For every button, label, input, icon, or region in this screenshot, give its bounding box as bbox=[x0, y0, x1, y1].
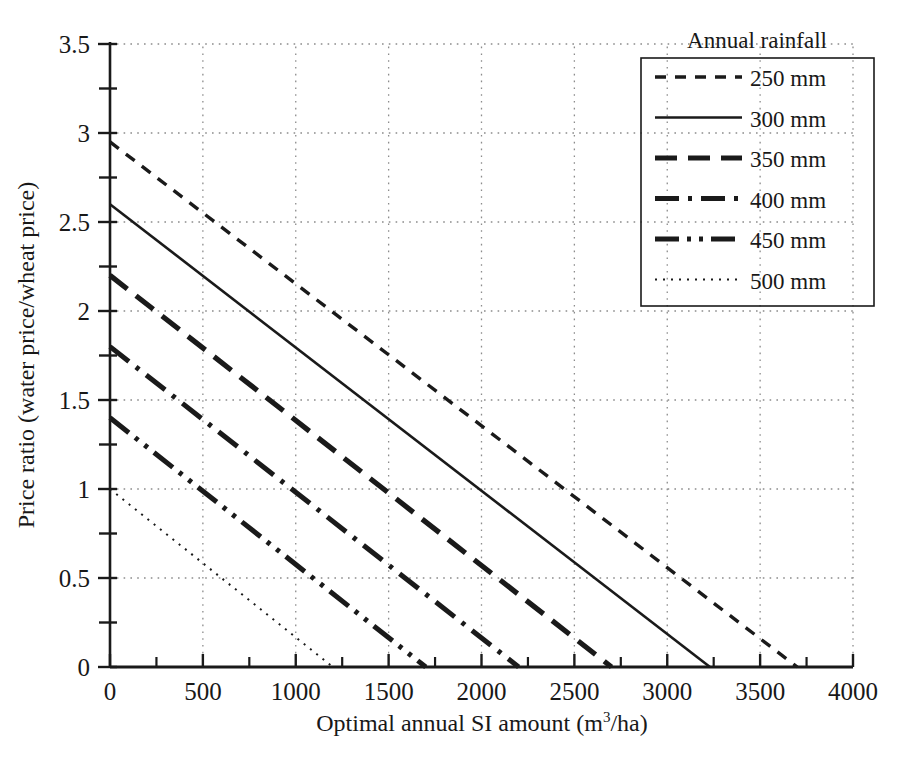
x-axis-title: Optimal annual SI amount (m3/ha) bbox=[316, 709, 647, 736]
chart-svg: 0500100015002000250030003500400000.511.5… bbox=[0, 0, 901, 765]
y-tick-label: 1.5 bbox=[59, 387, 90, 414]
series-line-500-mm bbox=[110, 489, 333, 667]
y-tick-label: 0 bbox=[78, 654, 91, 681]
x-tick-label: 2000 bbox=[457, 678, 507, 705]
x-tick-label: 4000 bbox=[828, 678, 878, 705]
legend-item-label: 350 mm bbox=[750, 147, 826, 172]
y-tick-label: 3 bbox=[78, 120, 91, 147]
legend-item-250-mm[interactable]: 250 mm bbox=[655, 66, 826, 91]
legend-item-350-mm[interactable]: 350 mm bbox=[655, 147, 826, 172]
legend-title: Annual rainfall bbox=[687, 28, 827, 53]
legend-item-label: 300 mm bbox=[750, 107, 826, 132]
x-tick-label: 0 bbox=[104, 678, 117, 705]
chart-figure: 0500100015002000250030003500400000.511.5… bbox=[0, 0, 901, 765]
legend-item-450-mm[interactable]: 450 mm bbox=[655, 228, 826, 253]
x-tick-label: 500 bbox=[184, 678, 222, 705]
series-line-250-mm bbox=[110, 142, 797, 667]
y-tick-label: 2 bbox=[78, 298, 91, 325]
grid-layer bbox=[110, 44, 853, 667]
legend-item-300-mm[interactable]: 300 mm bbox=[655, 107, 826, 132]
legend-item-label: 500 mm bbox=[750, 269, 826, 294]
series-line-400-mm bbox=[110, 347, 519, 667]
tick-label-layer: 0500100015002000250030003500400000.511.5… bbox=[59, 31, 878, 705]
legend-item-400-mm[interactable]: 400 mm bbox=[655, 188, 826, 213]
y-tick-label: 1 bbox=[78, 476, 91, 503]
x-tick-label: 3000 bbox=[642, 678, 692, 705]
legend-item-500-mm[interactable]: 500 mm bbox=[655, 269, 826, 294]
x-tick-label: 2500 bbox=[549, 678, 599, 705]
series-line-350-mm bbox=[110, 275, 612, 667]
plot-lines-layer bbox=[110, 142, 797, 667]
x-tick-label: 3500 bbox=[735, 678, 785, 705]
legend-item-label: 450 mm bbox=[750, 228, 826, 253]
legend-item-label: 250 mm bbox=[750, 66, 826, 91]
axis-layer bbox=[98, 42, 853, 667]
y-axis-title: Price ratio (water price/wheat price) bbox=[13, 182, 39, 528]
y-tick-label: 2.5 bbox=[59, 209, 90, 236]
x-tick-label: 1000 bbox=[271, 678, 321, 705]
series-line-300-mm bbox=[110, 204, 710, 667]
x-tick-label: 1500 bbox=[364, 678, 414, 705]
y-tick-label: 0.5 bbox=[59, 565, 90, 592]
y-tick-label: 3.5 bbox=[59, 31, 90, 58]
legend: Annual rainfall 250 mm300 mm350 mm400 mm… bbox=[641, 28, 874, 306]
legend-item-label: 400 mm bbox=[750, 188, 826, 213]
series-line-450-mm bbox=[110, 418, 426, 667]
